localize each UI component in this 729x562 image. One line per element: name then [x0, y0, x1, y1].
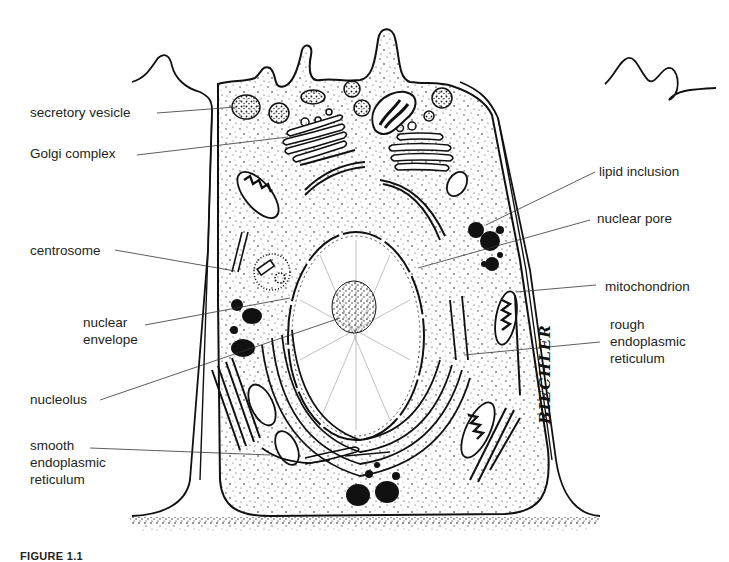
label-nuclear-envelope: nuclear envelope	[83, 314, 138, 348]
nucleolus	[332, 281, 376, 333]
label-rough-endoplasmic-reticulum: rough endoplasmic reticulum	[610, 316, 686, 367]
figure-caption: FIGURE 1.1	[20, 550, 83, 562]
nucleus	[288, 232, 424, 440]
label-golgi-complex: Golgi complex	[30, 145, 116, 162]
label-nucleolus: nucleolus	[30, 391, 87, 408]
neighbor-cell-left	[132, 55, 212, 516]
artist-signature: BIECHLER	[536, 324, 554, 424]
label-nuclear-pore: nuclear pore	[597, 210, 672, 227]
basal-lamina	[130, 517, 600, 524]
label-lipid-inclusion: lipid inclusion	[599, 163, 679, 180]
label-secretory-vesicle: secretory vesicle	[30, 104, 131, 121]
label-smooth-endoplasmic-reticulum: smooth endoplasmic reticulum	[30, 437, 106, 488]
label-centrosome: centrosome	[30, 242, 101, 259]
label-mitochondrion: mitochondrion	[605, 278, 690, 295]
